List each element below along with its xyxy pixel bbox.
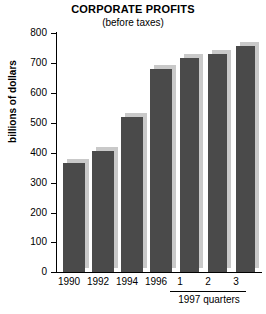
bar-body-1992	[92, 151, 114, 272]
plot-area	[57, 33, 262, 272]
bar-1997-q2[interactable]	[208, 33, 231, 272]
bar-body-1994	[121, 117, 143, 272]
bar-1990[interactable]	[63, 33, 89, 272]
y-tick-label-100: 100	[3, 236, 47, 247]
bar-body-1997-q1	[180, 58, 199, 272]
y-tick-label-300: 300	[3, 177, 47, 188]
y-tick-label-500: 500	[3, 117, 47, 128]
y-tick-label-400: 400	[3, 147, 47, 158]
chart-title: CORPORATE PROFITS	[0, 3, 266, 15]
bar-body-1996	[150, 69, 172, 272]
chart-container: CORPORATE PROFITS (before taxes) billion…	[0, 0, 266, 314]
x-tick-label-q3: 3	[228, 276, 244, 287]
bar-1994[interactable]	[121, 33, 147, 272]
quarters-caption: 1997 quarters	[160, 294, 258, 305]
y-tick-label-700: 700	[3, 57, 47, 68]
bar-1997-q3[interactable]	[236, 33, 259, 272]
x-axis-line	[56, 272, 262, 273]
y-tick-label-800: 800	[3, 27, 47, 38]
bar-body-1997-q3	[236, 46, 255, 272]
y-tick-0	[51, 272, 57, 273]
x-tick-label-q2: 2	[200, 276, 216, 287]
quarters-bracket	[170, 291, 246, 292]
bar-1992[interactable]	[92, 33, 118, 272]
bar-body-1997-q2	[208, 54, 227, 272]
y-tick-label-200: 200	[3, 207, 47, 218]
x-tick-label-1996: 1996	[138, 276, 174, 287]
y-tick-label-600: 600	[3, 87, 47, 98]
bar-body-1990	[63, 163, 85, 272]
y-tick-label-0: 0	[3, 266, 47, 277]
bar-1996[interactable]	[150, 33, 176, 272]
x-tick-label-q1: 1	[172, 276, 188, 287]
bar-1997-q1[interactable]	[180, 33, 203, 272]
